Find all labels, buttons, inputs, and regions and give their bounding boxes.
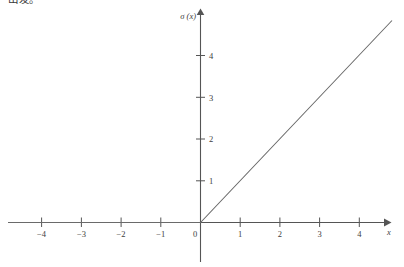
- y-tick-label-1: 1: [209, 176, 213, 186]
- x-tick-label-1: 1: [238, 229, 242, 239]
- x-tick-label-2: 2: [278, 229, 282, 239]
- origin-label: 0: [193, 229, 197, 239]
- x-tick-label--2: −2: [117, 229, 126, 239]
- x-axis-label: x: [386, 227, 391, 237]
- x-axis-arrow-icon: [384, 219, 392, 227]
- y-tick-label-2: 2: [209, 134, 213, 144]
- y-axis-arrow-icon: [197, 9, 205, 16]
- y-tick-label-3: 3: [209, 93, 213, 103]
- y-axis-label: σ (x): [180, 11, 196, 21]
- x-tick-label--4: −4: [37, 229, 47, 239]
- x-tick-label-3: 3: [317, 229, 321, 239]
- relu-plot: −4 −3 −2 −1 1 2 3 4 0 1 2 3 4 σ (x) x: [0, 0, 404, 267]
- x-tick-label--3: −3: [77, 229, 86, 239]
- x-tick-label-4: 4: [357, 229, 362, 239]
- x-tick-label--1: −1: [156, 229, 165, 239]
- y-tick-label-4: 4: [209, 51, 214, 61]
- figure-page: 出发。 −4 −3 −2 −1 1 2 3 4 0: [0, 0, 404, 267]
